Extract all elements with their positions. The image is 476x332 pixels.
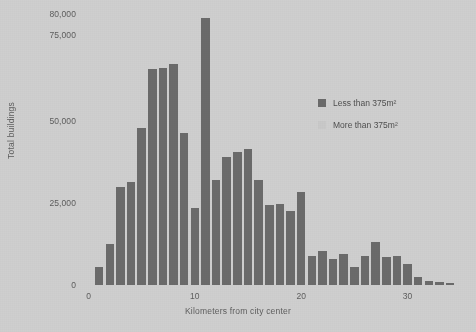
- bar: [414, 277, 423, 285]
- bar: [276, 204, 285, 285]
- bar: [148, 69, 157, 285]
- bar: [371, 242, 380, 285]
- bar: [254, 180, 263, 285]
- legend-label: Less than 375m²: [333, 98, 396, 108]
- bar: [222, 157, 231, 285]
- bar: [95, 267, 104, 285]
- bar: [446, 283, 455, 285]
- bar: [212, 180, 221, 285]
- y-axis-tick-label: 75,000: [22, 30, 76, 40]
- bar: [361, 256, 370, 286]
- bar: [159, 68, 168, 285]
- x-axis-tick-label: 20: [296, 291, 305, 301]
- bar: [265, 205, 274, 285]
- bar: [116, 187, 125, 285]
- chart-legend: Less than 375m²More than 375m²: [318, 96, 398, 140]
- bar: [308, 256, 317, 286]
- bar: [393, 256, 402, 286]
- bar: [350, 267, 359, 285]
- bar: [244, 149, 253, 285]
- x-axis-tick-label: 10: [190, 291, 199, 301]
- x-axis-tick-label: 0: [86, 291, 91, 301]
- bar: [180, 133, 189, 285]
- y-axis-tick-label: 25,000: [22, 198, 76, 208]
- bar-chart: Total buildings 025,00050,00075,00080,00…: [0, 0, 476, 332]
- y-axis-tick-label: 0: [22, 280, 76, 290]
- bar: [297, 192, 306, 285]
- bar: [106, 244, 115, 285]
- legend-swatch-icon: [318, 121, 326, 129]
- bar: [425, 281, 434, 285]
- y-axis-tick-label: 50,000: [22, 116, 76, 126]
- bar: [286, 211, 295, 285]
- bar: [233, 152, 242, 285]
- y-axis-tick-labels: 025,00050,00075,00080,000: [18, 0, 76, 332]
- bar: [403, 264, 412, 285]
- legend-item[interactable]: Less than 375m²: [318, 96, 398, 110]
- x-axis-title: Kilometers from city center: [0, 306, 476, 316]
- bar: [339, 254, 348, 285]
- bar: [435, 282, 444, 285]
- bar: [127, 182, 136, 285]
- y-axis-tick-label: 80,000: [22, 9, 76, 19]
- bar: [191, 208, 200, 285]
- x-axis-tick-label: 30: [403, 291, 412, 301]
- legend-swatch-icon: [318, 99, 326, 107]
- bar: [329, 259, 338, 285]
- bar: [201, 18, 210, 285]
- bar: [169, 64, 178, 285]
- bar: [382, 257, 391, 285]
- legend-label: More than 375m²: [333, 120, 398, 130]
- bar: [318, 251, 327, 285]
- plot-area: [80, 14, 466, 285]
- bar: [137, 128, 146, 285]
- legend-item[interactable]: More than 375m²: [318, 118, 398, 132]
